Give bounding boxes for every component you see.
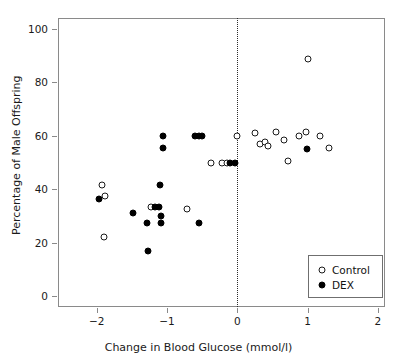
x-tick-label: −1 — [159, 315, 174, 327]
x-tick-label: 0 — [234, 315, 241, 327]
data-point-control — [273, 128, 280, 135]
data-point-control — [207, 159, 214, 166]
legend-label-dex: DEX — [332, 279, 354, 291]
data-point-control — [100, 234, 107, 241]
legend-entry-control: Control — [317, 262, 373, 277]
data-point-control — [102, 192, 109, 199]
data-point-control — [183, 206, 190, 213]
open-circle-icon — [317, 265, 327, 275]
data-point-control — [325, 144, 332, 151]
data-point-dex — [130, 210, 137, 217]
y-tick-mark — [52, 296, 57, 297]
data-point-control — [316, 132, 323, 139]
x-tick-mark — [237, 308, 238, 313]
y-tick-label: 20 — [20, 237, 48, 249]
y-tick-label: 0 — [20, 290, 48, 302]
filled-circle-icon — [317, 280, 327, 290]
x-tick-mark — [378, 308, 379, 313]
y-tick-mark — [52, 82, 57, 83]
legend-label-control: Control — [332, 264, 370, 276]
y-tick-label: 80 — [20, 76, 48, 88]
data-point-control — [284, 158, 291, 165]
data-point-control — [304, 56, 311, 63]
legend: Control DEX — [308, 255, 383, 298]
x-tick-label: 1 — [304, 315, 311, 327]
y-tick-mark — [52, 136, 57, 137]
data-point-dex — [145, 248, 152, 255]
data-point-control — [265, 143, 272, 150]
x-axis-title: Change in Blood Glucose (mmol/l) — [105, 341, 293, 354]
data-point-control — [281, 136, 288, 143]
y-tick-label: 100 — [20, 23, 48, 35]
data-point-control — [98, 182, 105, 189]
data-point-dex — [160, 132, 167, 139]
y-tick-mark — [52, 29, 57, 30]
x-tick-label: 2 — [375, 315, 382, 327]
y-axis-title: Percentage of Male Offspring — [10, 75, 23, 235]
y-tick-mark — [52, 243, 57, 244]
data-point-dex — [155, 203, 162, 210]
x-tick-mark — [308, 308, 309, 313]
y-tick-label: 40 — [20, 183, 48, 195]
scatter-plot-figure: −2−1012 020406080100 Change in Blood Glu… — [0, 0, 397, 358]
data-point-dex — [231, 159, 238, 166]
data-point-dex — [158, 219, 165, 226]
x-tick-label: −2 — [89, 315, 104, 327]
data-point-control — [234, 132, 241, 139]
data-point-dex — [199, 132, 206, 139]
data-point-control — [296, 132, 303, 139]
data-point-dex — [144, 219, 151, 226]
data-point-dex — [303, 146, 310, 153]
y-tick-label: 60 — [20, 130, 48, 142]
x-tick-mark — [167, 308, 168, 313]
data-point-control — [303, 128, 310, 135]
data-point-dex — [95, 195, 102, 202]
data-point-dex — [160, 144, 167, 151]
y-tick-mark — [52, 189, 57, 190]
legend-entry-dex: DEX — [317, 277, 373, 292]
data-point-control — [251, 130, 258, 137]
data-point-dex — [156, 182, 163, 189]
data-point-dex — [195, 219, 202, 226]
x-tick-mark — [97, 308, 98, 313]
